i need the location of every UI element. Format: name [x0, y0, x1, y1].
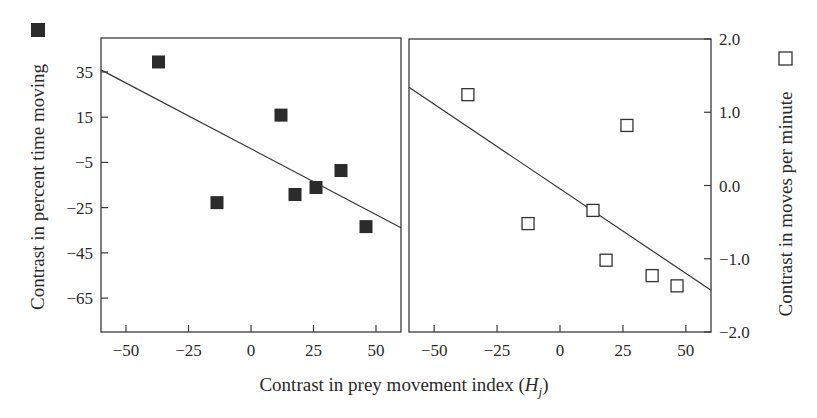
y-tick-label: −2.0: [719, 323, 750, 342]
filled-square-marker: [211, 196, 224, 209]
x-tick-label: −25: [175, 341, 202, 360]
filled-square-marker: [335, 164, 348, 177]
x-tick-label: 25: [305, 341, 322, 360]
open-square-marker: [587, 204, 599, 216]
x-tick-label: −50: [421, 341, 448, 360]
filled-square-marker: [275, 109, 288, 122]
figure: Contrast in percent time moving −50−2502…: [0, 0, 817, 418]
x-tick-label: 50: [677, 341, 694, 360]
right-regression-line: [409, 87, 711, 290]
y-tick-label: 15: [76, 108, 93, 127]
right-y-axis-label: Contrast in moves per minute: [775, 92, 796, 317]
open-square-marker: [522, 218, 534, 230]
x-axis-label: Contrast in prey movement index (Hj): [259, 374, 548, 399]
open-square-marker: [462, 89, 474, 101]
left-panel: −50−25025503515−5−25−45−65: [66, 38, 401, 360]
filled-square-marker: [289, 188, 302, 201]
y-tick-label: −25: [66, 199, 93, 218]
x-tick-label: 50: [368, 341, 385, 360]
left-regression-line: [101, 70, 401, 228]
left-y-axis-label: Contrast in percent time moving: [27, 64, 48, 310]
x-tick-label: −50: [113, 341, 140, 360]
x-tick-label: 0: [247, 341, 256, 360]
filled-square-marker: [360, 220, 373, 233]
x-tick-label: 25: [614, 341, 631, 360]
y-tick-label: 1.0: [719, 103, 740, 122]
y-tick-label: −1.0: [719, 250, 750, 269]
y-tick-label: −5: [75, 153, 93, 172]
y-tick-label: 0.0: [719, 177, 740, 196]
open-square-marker: [621, 119, 633, 131]
filled-square-marker: [152, 55, 165, 68]
y-tick-label: −65: [66, 289, 93, 308]
right-legend-open-square-icon: [779, 52, 792, 65]
x-tick-label: −25: [484, 341, 511, 360]
y-tick-label: 35: [76, 63, 93, 82]
open-square-marker: [600, 254, 612, 266]
left-legend-filled-square-icon: [31, 23, 45, 37]
open-square-marker: [646, 270, 658, 282]
y-tick-label: −45: [66, 244, 93, 263]
y-tick-label: 2.0: [719, 30, 740, 49]
filled-square-marker: [310, 181, 323, 194]
x-tick-label: 0: [556, 341, 565, 360]
open-square-marker: [671, 280, 683, 292]
right-panel: −50−25025502.01.00.0−1.0−2.0: [409, 30, 750, 360]
left-plot-frame: [101, 38, 401, 332]
right-plot-frame: [409, 39, 711, 332]
